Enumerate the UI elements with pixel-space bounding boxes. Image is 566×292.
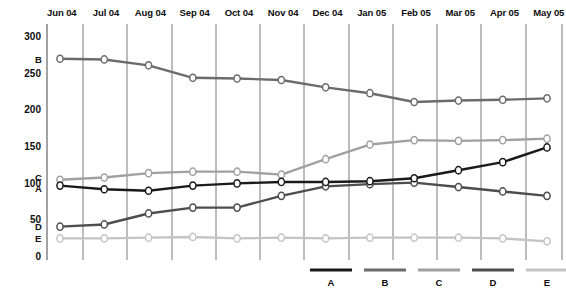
- data-point: [367, 234, 373, 241]
- y-axis-tick-label: 0: [35, 251, 41, 262]
- x-axis-tick-label: Feb 05: [401, 7, 431, 18]
- legend-label-a[interactable]: A: [328, 277, 335, 288]
- data-point: [234, 180, 240, 187]
- series-inline-label-e: E: [35, 233, 41, 244]
- data-point: [411, 175, 417, 182]
- data-point: [411, 137, 417, 144]
- data-point: [278, 234, 284, 241]
- data-point: [57, 182, 63, 189]
- series-inline-label-a: A: [35, 182, 42, 193]
- data-point: [544, 135, 550, 142]
- y-axis-tick-label: 300: [24, 31, 41, 42]
- x-axis-tick-label: Apr 05: [490, 7, 519, 18]
- data-point: [101, 221, 107, 228]
- data-point: [544, 95, 550, 102]
- data-point: [500, 96, 506, 103]
- data-point: [323, 178, 329, 185]
- data-point: [500, 235, 506, 242]
- x-axis-tick-label: Aug 04: [135, 7, 166, 18]
- data-point: [500, 159, 506, 166]
- data-point: [411, 98, 417, 105]
- x-axis-tick-label: Dec 04: [312, 7, 342, 18]
- data-point: [411, 234, 417, 241]
- data-point: [145, 187, 151, 194]
- data-point: [500, 137, 506, 144]
- data-point: [145, 170, 151, 177]
- data-point: [544, 192, 550, 199]
- x-axis-tick-label: Sep 04: [180, 7, 210, 18]
- x-axis-tick-label: Nov 04: [268, 7, 299, 18]
- x-axis-tick-label: Jul 04: [93, 7, 119, 18]
- line-chart: 050100150200250300Jun 04Jul 04Aug 04Sep …: [0, 0, 566, 292]
- data-point: [455, 234, 461, 241]
- data-point: [145, 62, 151, 69]
- data-point: [101, 56, 107, 63]
- data-point: [234, 235, 240, 242]
- data-point: [500, 188, 506, 195]
- legend-label-e[interactable]: E: [544, 277, 550, 288]
- data-point: [278, 171, 284, 178]
- data-point: [190, 233, 196, 240]
- y-axis-tick-label: 200: [24, 104, 41, 115]
- data-point: [323, 156, 329, 163]
- y-axis-tick-label: 250: [24, 67, 41, 78]
- legend-label-b[interactable]: B: [382, 277, 389, 288]
- chart-canvas: [0, 0, 566, 292]
- series-inline-label-d: D: [35, 220, 42, 231]
- data-point: [57, 223, 63, 230]
- data-point: [323, 235, 329, 242]
- data-point: [234, 75, 240, 82]
- series-inline-label-c: C: [35, 171, 42, 182]
- legend-label-d[interactable]: D: [490, 277, 497, 288]
- data-point: [455, 183, 461, 190]
- data-point: [455, 137, 461, 144]
- data-point: [367, 178, 373, 185]
- data-point: [145, 210, 151, 217]
- data-point: [101, 235, 107, 242]
- data-point: [455, 167, 461, 174]
- data-point: [544, 238, 550, 245]
- data-point: [234, 168, 240, 175]
- data-point: [57, 55, 63, 62]
- data-point: [57, 235, 63, 242]
- data-point: [278, 192, 284, 199]
- y-axis-tick-label: 150: [24, 141, 41, 152]
- data-point: [190, 182, 196, 189]
- x-axis-tick-label: May 05: [533, 7, 564, 18]
- x-axis-tick-label: Jun 04: [47, 7, 77, 18]
- data-point: [367, 90, 373, 97]
- data-point: [190, 204, 196, 211]
- data-point: [190, 74, 196, 81]
- data-point: [190, 168, 196, 175]
- data-point: [367, 141, 373, 148]
- x-axis-tick-label: Jan 05: [357, 7, 386, 18]
- data-point: [544, 144, 550, 151]
- data-point: [101, 186, 107, 193]
- data-point: [145, 234, 151, 241]
- data-point: [455, 97, 461, 104]
- legend-label-c[interactable]: C: [436, 277, 443, 288]
- data-point: [278, 178, 284, 185]
- data-point: [234, 204, 240, 211]
- x-axis-tick-label: Mar 05: [445, 7, 475, 18]
- series-inline-label-b: B: [35, 53, 42, 64]
- data-point: [323, 84, 329, 91]
- x-axis-tick-label: Oct 04: [225, 7, 253, 18]
- data-point: [101, 174, 107, 181]
- data-point: [278, 76, 284, 83]
